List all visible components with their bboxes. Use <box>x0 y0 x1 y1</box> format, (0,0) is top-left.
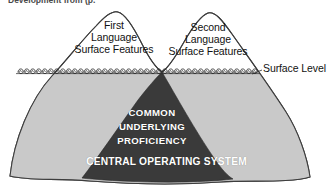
figure-canvas: Development from (p. <box>0 0 333 193</box>
cup-line-2: UNDERLYING <box>92 120 212 134</box>
second-language-line-3: Surface Features <box>152 46 264 58</box>
second-language-line-2: Language <box>152 34 264 46</box>
cup-line-1: COMMON <box>92 106 212 120</box>
second-language-line-1: Second <box>152 22 264 34</box>
surface-level-label: Surface Level <box>263 63 326 75</box>
common-underlying-proficiency-label: COMMON UNDERLYING PROFICIENCY <box>92 106 212 148</box>
cup-line-3: PROFICIENCY <box>92 134 212 148</box>
peak-label-second-language: Second Language Surface Features <box>152 22 264 57</box>
central-operating-system-label: CENTRAL OPERATING SYSTEM <box>0 156 333 167</box>
